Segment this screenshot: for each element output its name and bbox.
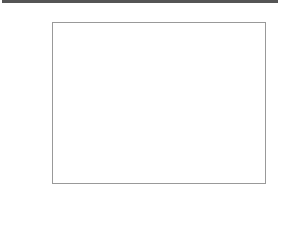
top-border-bar: [2, 0, 278, 3]
plot-area: [52, 22, 266, 184]
